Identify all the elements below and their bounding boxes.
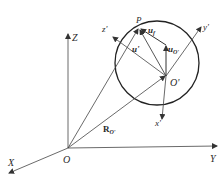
z-prime-axis <box>113 37 166 76</box>
label-R-O-prime: RO' <box>103 124 116 135</box>
coordinate-diagram: Z Y X O O' P z' y' x' u' uf uO' RO' <box>0 0 221 176</box>
x-prime-axis <box>162 76 166 119</box>
label-u-f: uf <box>148 25 156 36</box>
label-u-prime: u' <box>132 44 140 54</box>
label-z-prime: z' <box>101 24 109 34</box>
label-P: P <box>135 15 142 25</box>
label-Z: Z <box>72 32 78 43</box>
label-y-prime: y' <box>202 22 210 32</box>
label-O: O <box>63 154 70 165</box>
label-u-O-prime: uO' <box>168 44 179 55</box>
label-X: X <box>7 157 15 168</box>
label-x-prime: x' <box>154 118 162 128</box>
rigid-body-circle <box>115 21 199 105</box>
label-O-prime: O' <box>170 77 180 88</box>
label-Y: Y <box>210 153 217 164</box>
y-axis <box>68 146 217 148</box>
x-axis <box>9 148 68 173</box>
vector-R-O-prime <box>68 76 165 148</box>
